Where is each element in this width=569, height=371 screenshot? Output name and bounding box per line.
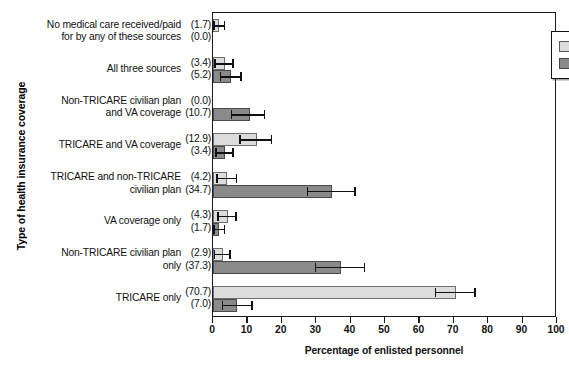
error-bar-line — [231, 114, 265, 116]
error-bar-cap-high — [236, 174, 238, 183]
error-bar — [214, 250, 231, 259]
error-bar-line — [214, 63, 233, 65]
x-axis-tick-label: 90 — [507, 324, 537, 335]
category-label-line: for by any of these sources — [18, 31, 181, 43]
x-axis-tick-label: 0 — [197, 324, 227, 335]
error-bar-line — [215, 152, 233, 154]
value-label-pair: (4.3)(1.7) — [178, 209, 211, 234]
error-bar-cap-high — [229, 250, 231, 259]
value-label-pair: (4.2)(34.7) — [178, 171, 211, 196]
error-bar-cap-high — [251, 301, 253, 310]
error-bar-cap-high — [235, 212, 237, 221]
legend-item: Enlisted not enrolled in civilian plan — [559, 38, 569, 55]
x-axis-tick — [487, 317, 488, 323]
error-bar-cap-high — [240, 72, 242, 81]
category-label: TRICARE and non-TRICAREcivilian plan — [18, 171, 181, 196]
value-label-light: (3.4) — [178, 57, 211, 69]
x-axis-title: Percentage of enlisted personnel — [212, 345, 556, 356]
category-label: TRICARE only — [18, 292, 181, 304]
value-label-dark: (34.7) — [178, 184, 211, 196]
x-axis-tick — [315, 317, 316, 323]
value-label-pair: (70.7)(7.0) — [178, 286, 211, 311]
value-label-light: (70.7) — [178, 286, 211, 298]
chart-legend: Enlisted not enrolled in civilian planEn… — [551, 31, 569, 79]
value-label-light: (4.3) — [178, 209, 211, 221]
category-label: Non-TRICARE civilian planonly — [18, 247, 181, 272]
error-bar — [216, 174, 237, 183]
category-label: TRICARE and VA coverage — [18, 139, 181, 151]
error-bar-line — [239, 139, 272, 141]
error-bar — [222, 301, 253, 310]
x-axis-tick — [418, 317, 419, 323]
x-axis-tick — [522, 317, 523, 323]
value-label-pair: (1.7)(0.0) — [178, 19, 211, 44]
error-bar-line — [315, 267, 366, 269]
category-label: All three sources — [18, 63, 181, 75]
x-axis-tick-label: 10 — [231, 324, 261, 335]
value-label-pair: (2.9)(37.3) — [178, 247, 211, 272]
error-bar — [213, 225, 225, 234]
category-label-column: No medical care received/paidfor by any … — [18, 12, 181, 317]
legend-swatch — [559, 41, 569, 52]
x-axis-tick-label: 20 — [266, 324, 296, 335]
x-axis: 0102030405060708090100 — [212, 317, 556, 339]
value-label-pair: (3.4)(5.2) — [178, 57, 211, 82]
value-label-light: (2.9) — [178, 247, 211, 259]
x-axis-tick-label: 70 — [438, 324, 468, 335]
x-axis-tick-label: 40 — [335, 324, 365, 335]
value-label-pair: (12.9)(3.4) — [178, 133, 211, 158]
legend-swatch — [559, 58, 569, 69]
x-axis-tick-label: 80 — [472, 324, 502, 335]
value-label-light: (12.9) — [178, 133, 211, 145]
error-bar-line — [435, 292, 476, 294]
value-label-dark: (10.7) — [178, 107, 211, 119]
category-label: Non-TRICARE civilian planand VA coverage — [18, 95, 181, 120]
error-bar-cap-high — [271, 135, 273, 144]
value-label-pair: (0.0)(10.7) — [178, 95, 211, 120]
value-label-dark: (7.0) — [178, 298, 211, 310]
x-axis-tick — [281, 317, 282, 323]
error-bar-cap-high — [224, 225, 226, 234]
value-label-dark: (0.0) — [178, 31, 211, 43]
legend-item: Enlisted enrolled in civilian plan — [559, 55, 569, 72]
plot-area: Enlisted not enrolled in civilian planEn… — [212, 12, 556, 317]
category-label: No medical care received/paidfor by any … — [18, 19, 181, 44]
error-bar — [315, 263, 366, 272]
error-bar — [217, 212, 236, 221]
value-label-dark: (5.2) — [178, 69, 211, 81]
category-label-line: No medical care received/paid — [18, 19, 181, 31]
category-label-line: All three sources — [18, 63, 181, 75]
x-axis-tick — [350, 317, 351, 323]
error-bar-line — [222, 305, 253, 307]
error-bar — [220, 72, 242, 81]
error-bar-cap-high — [232, 59, 234, 68]
category-label-line: and VA coverage — [18, 107, 181, 119]
error-bar-line — [220, 76, 242, 78]
error-bar — [214, 59, 233, 68]
category-label-line: VA coverage only — [18, 215, 181, 227]
value-label-column: (1.7)(0.0)(3.4)(5.2)(0.0)(10.7)(12.9)(3.… — [178, 12, 211, 317]
category-label-line: civilian plan — [18, 184, 181, 196]
error-bar-line — [216, 178, 237, 180]
category-label-line: TRICARE and VA coverage — [18, 139, 181, 151]
x-axis-tick — [556, 317, 557, 323]
error-bar-cap-high — [232, 148, 234, 157]
x-axis-tick-label: 30 — [300, 324, 330, 335]
value-label-light: (4.2) — [178, 171, 211, 183]
error-bar — [239, 135, 272, 144]
category-label-line: TRICARE only — [18, 292, 181, 304]
error-bar-line — [214, 254, 231, 256]
category-label: VA coverage only — [18, 215, 181, 227]
x-axis-tick — [246, 317, 247, 323]
error-bar-line — [307, 191, 356, 193]
value-label-dark: (37.3) — [178, 260, 211, 272]
x-axis-tick — [212, 317, 213, 323]
plot-inner — [213, 13, 555, 316]
value-label-light: (0.0) — [178, 95, 211, 107]
error-bar — [213, 21, 225, 30]
error-bar-cap-high — [264, 110, 266, 119]
bar — [213, 286, 456, 299]
category-label-line: TRICARE and non-TRICARE — [18, 171, 181, 183]
value-label-dark: (3.4) — [178, 145, 211, 157]
value-label-light: (1.7) — [178, 19, 211, 31]
